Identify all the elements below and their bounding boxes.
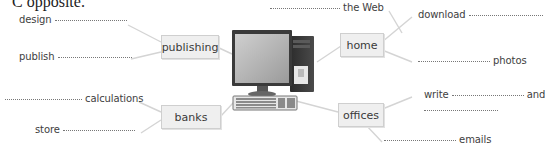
answer-blank[interactable] [469,15,543,16]
phrase-calculations: calculations [5,93,143,104]
answer-blank[interactable] [58,57,132,58]
answer-blank[interactable] [418,61,490,62]
phrase-write-line2 [424,104,498,115]
phrase-publish: publish [19,51,132,62]
answer-blank[interactable] [5,99,82,100]
phrase-the-web: the Web [270,2,384,13]
phrase-download: download [418,9,543,20]
phrase-photos: photos [418,55,527,66]
phrase-store: store [35,124,135,135]
desktop-computer-icon [230,28,326,114]
answer-blank[interactable] [424,110,498,111]
answer-blank[interactable] [55,20,127,21]
phrase-write: write and [424,89,545,100]
hub-publishing: publishing [161,35,219,59]
hub-offices: offices [338,103,384,127]
phrase-design: design [19,14,127,25]
hub-home: home [340,33,384,57]
answer-blank[interactable] [452,95,524,96]
answer-blank[interactable] [384,140,456,141]
answer-blank[interactable] [270,8,340,9]
answer-blank[interactable] [63,130,135,131]
phrase-emails: emails [384,134,491,145]
hub-banks: banks [161,105,221,129]
